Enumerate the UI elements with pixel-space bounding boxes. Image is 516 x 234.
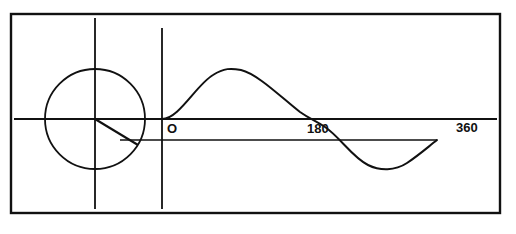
radius-line bbox=[95, 119, 138, 145]
origin-label: O bbox=[167, 121, 177, 136]
figure-canvas: O 180 360 bbox=[0, 0, 516, 234]
sine-curve-figure: O 180 360 bbox=[0, 0, 516, 234]
outer-frame bbox=[11, 14, 500, 213]
tick-label-180: 180 bbox=[307, 121, 329, 136]
tick-label-360: 360 bbox=[456, 120, 478, 135]
